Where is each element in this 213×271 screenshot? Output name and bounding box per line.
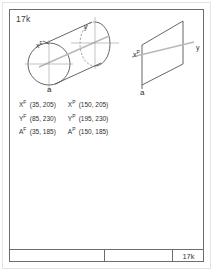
cylinder-axis-line xyxy=(39,36,109,67)
drawing-sheet: 17k xF y a xyxy=(0,0,213,271)
title-block: 17k xyxy=(9,249,204,262)
front-view-y-label: y xyxy=(84,23,88,30)
coordinate-column-front: XF (35, 205) YF (85, 230) AF (35, 185) xyxy=(19,98,56,136)
coordinate-row: XF (35, 205) xyxy=(19,98,56,109)
coordinate-row: YF (85, 230) xyxy=(19,112,56,123)
side-view-axis-line xyxy=(132,42,194,57)
front-view-a-label: a xyxy=(47,85,51,94)
title-block-sheet-number: 17k xyxy=(173,250,204,262)
coordinate-column-side: XP (150, 205) YP (195, 230) AP (150, 185… xyxy=(68,98,108,136)
lower-generator-line xyxy=(55,63,101,84)
title-block-left-cell xyxy=(9,250,105,262)
cylinder-front-view xyxy=(9,9,139,109)
coordinate-listing: XF (35, 205) YF (85, 230) AF (35, 185) X… xyxy=(19,98,108,136)
side-view-a-label: a xyxy=(140,88,144,97)
coordinate-row: AP (150, 185) xyxy=(68,125,108,136)
front-view-x-label: xF xyxy=(36,40,43,49)
title-block-middle-cell xyxy=(105,250,173,262)
coordinate-row: YP (195, 230) xyxy=(68,112,108,123)
coordinate-row: XP (150, 205) xyxy=(68,98,108,109)
side-view-x-label: xP xyxy=(133,49,140,58)
side-view-y-label: y xyxy=(196,44,200,51)
far-circle-visible-arc xyxy=(95,22,110,66)
coordinate-row: AF (35, 185) xyxy=(19,125,56,136)
